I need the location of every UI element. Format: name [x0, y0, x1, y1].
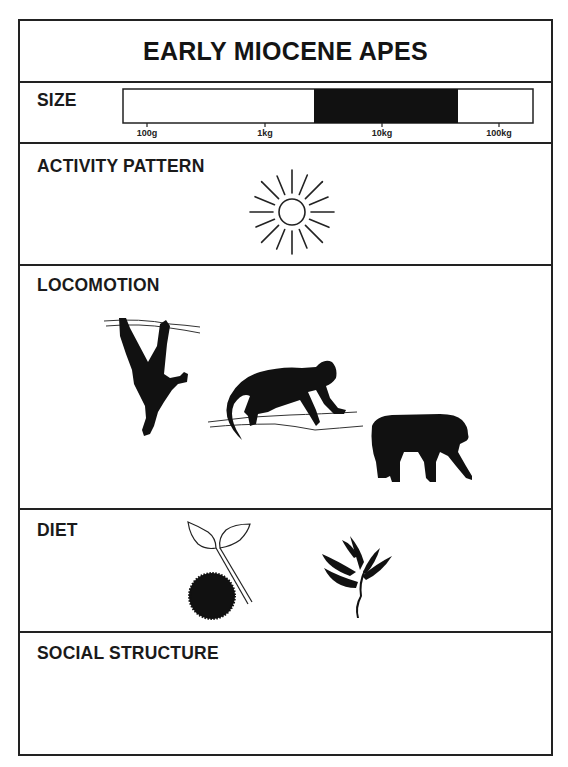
social-structure-section: SOCIAL STRUCTURE	[20, 631, 551, 756]
locomotion-illustrations	[20, 266, 551, 508]
size-scale-bar	[20, 83, 551, 143]
locomotion-section: LOCOMOTION	[20, 264, 551, 508]
species-card: EARLY MIOCENE APES SIZE 100g 1kg 10kg 10…	[18, 19, 553, 756]
tick-10kg: 10kg	[372, 128, 393, 138]
card-title: EARLY MIOCENE APES	[143, 37, 428, 66]
arboreal-quadruped-monkey-icon	[208, 361, 363, 440]
tick-100kg: 100kg	[486, 128, 512, 138]
diet-illustrations	[20, 510, 551, 631]
title-section: EARLY MIOCENE APES	[20, 21, 551, 81]
terrestrial-quadruped-ape-icon	[372, 414, 473, 482]
fruit-icon	[188, 522, 252, 619]
tick-100g: 100g	[137, 128, 158, 138]
diet-section: DIET	[20, 508, 551, 631]
tick-1kg: 1kg	[257, 128, 273, 138]
suspensory-ape-icon	[104, 318, 200, 436]
size-section: SIZE 100g 1kg 10kg 100kg	[20, 81, 551, 143]
social-structure-label: SOCIAL STRUCTURE	[37, 643, 219, 664]
sun-icon	[20, 144, 551, 264]
size-range-fill	[314, 89, 458, 123]
activity-pattern-section: ACTIVITY PATTERN	[20, 142, 551, 264]
leaves-icon	[322, 536, 392, 618]
